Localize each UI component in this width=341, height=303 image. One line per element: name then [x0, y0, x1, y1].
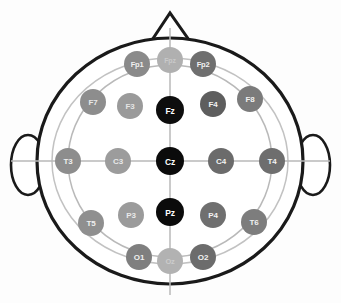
electrode-t4[interactable]: T4 [259, 148, 285, 174]
electrode-o1[interactable]: O1 [126, 244, 152, 270]
electrode-fp2[interactable]: Fp2 [190, 51, 216, 77]
electrode-o2[interactable]: O2 [190, 244, 216, 270]
electrode-fpz[interactable]: Fpz [157, 47, 183, 73]
electrode-node-circle [190, 51, 216, 77]
electrode-c3[interactable]: C3 [105, 148, 131, 174]
electrode-c4[interactable]: C4 [208, 148, 234, 174]
electrode-t3[interactable]: T3 [55, 148, 81, 174]
electrode-node-circle [78, 210, 104, 236]
eeg-diagram-canvas: Fp1FpzFp2F7F3FzF4F8T3C3CzC4T4T5P3PzP4T6O… [0, 0, 341, 303]
electrode-cz[interactable]: Cz [156, 147, 184, 175]
electrode-node-circle [208, 148, 234, 174]
electrode-node-circle [241, 209, 267, 235]
electrode-f7[interactable]: F7 [80, 89, 106, 115]
electrode-node-circle [157, 248, 183, 274]
electrode-node-circle [200, 202, 226, 228]
electrode-node-circle [156, 147, 184, 175]
electrode-node-circle [80, 89, 106, 115]
electrode-node-circle [200, 91, 226, 117]
electrode-p3[interactable]: P3 [118, 202, 144, 228]
electrode-t5[interactable]: T5 [78, 210, 104, 236]
electrode-f3[interactable]: F3 [117, 93, 143, 119]
electrode-p4[interactable]: P4 [200, 202, 226, 228]
electrode-node-circle [237, 86, 263, 112]
electrode-node-circle [118, 202, 144, 228]
electrode-fz[interactable]: Fz [156, 96, 184, 124]
electrode-node-circle [156, 198, 184, 226]
electrode-node-circle [259, 148, 285, 174]
electrode-node-circle [124, 51, 150, 77]
electrode-node-circle [117, 93, 143, 119]
electrode-t6[interactable]: T6 [241, 209, 267, 235]
electrode-node-circle [105, 148, 131, 174]
electrode-node-circle [190, 244, 216, 270]
electrode-node-circle [156, 96, 184, 124]
electrode-oz[interactable]: Oz [157, 248, 183, 274]
electrode-pz[interactable]: Pz [156, 198, 184, 226]
electrode-node-circle [55, 148, 81, 174]
eeg-electrode-diagram: Fp1FpzFp2F7F3FzF4F8T3C3CzC4T4T5P3PzP4T6O… [0, 0, 341, 303]
electrode-f8[interactable]: F8 [237, 86, 263, 112]
electrode-node-circle [126, 244, 152, 270]
electrode-fp1[interactable]: Fp1 [124, 51, 150, 77]
electrode-node-circle [157, 47, 183, 73]
electrode-f4[interactable]: F4 [200, 91, 226, 117]
